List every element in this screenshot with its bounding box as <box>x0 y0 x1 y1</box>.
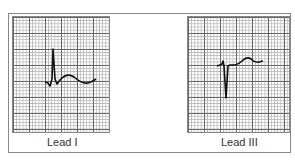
lead-iii-label: Lead III <box>221 136 258 148</box>
ecg-trace-lead-i <box>12 16 110 133</box>
ecg-trace-lead-iii <box>187 16 290 133</box>
lead-i-label: Lead I <box>47 136 78 148</box>
ecg-panel-lead-i <box>12 16 110 133</box>
ecg-panel-lead-iii <box>187 16 290 133</box>
